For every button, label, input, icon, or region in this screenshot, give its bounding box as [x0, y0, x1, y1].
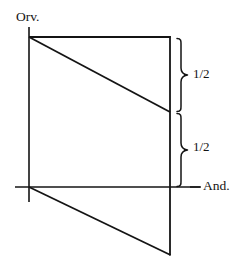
label-upper-half: 1/2 [193, 67, 210, 80]
label-and: And. [203, 179, 230, 193]
label-lower-half: 1/2 [193, 140, 210, 153]
diagram-svg [0, 0, 238, 268]
figure-canvas: Orv. And. 1/2 1/2 [0, 0, 238, 268]
lower-brace-icon [177, 114, 188, 187]
upper-brace-icon [177, 39, 188, 112]
lower-diagonal-line [29, 187, 171, 255]
upper-diagonal-line [29, 37, 170, 112]
label-orv: Orv. [16, 10, 40, 24]
